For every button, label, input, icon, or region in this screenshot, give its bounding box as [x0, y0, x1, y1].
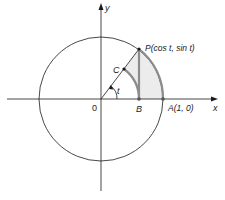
- y-axis-arrow-icon: [99, 3, 104, 10]
- point-A-label: A(1, 0): [167, 103, 194, 113]
- x-axis-arrow-icon: [211, 97, 218, 102]
- x-axis-label: x: [212, 103, 218, 113]
- point-P-dot: [137, 47, 140, 50]
- shaded-region: [139, 49, 163, 99]
- point-P-label: P(cos t, sin t): [145, 43, 195, 53]
- y-axis-label: y: [104, 3, 110, 13]
- angle-t-label: t: [117, 86, 120, 96]
- point-B-dot: [137, 97, 141, 101]
- point-B-label: B: [136, 104, 142, 114]
- shaded-inner-region: [124, 49, 139, 99]
- point-C-dot: [122, 67, 125, 70]
- point-A-dot: [161, 97, 165, 101]
- point-C-label: C: [113, 65, 120, 75]
- origin-label: 0: [92, 103, 97, 113]
- unit-circle-diagram: y x 0 t P(cos t, sin t) C B A(1, 0): [0, 0, 225, 200]
